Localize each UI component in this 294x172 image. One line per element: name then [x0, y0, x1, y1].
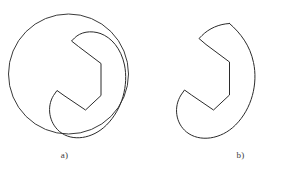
panel-b-caption: b)	[176, 151, 294, 160]
circumscribing-circle	[9, 14, 129, 134]
hook-shape-outline-a	[50, 32, 126, 138]
figure-svg	[0, 0, 294, 172]
hook-shape-outline-b	[177, 24, 255, 139]
panel-a-caption: a)	[0, 151, 129, 160]
panel-a-group	[9, 14, 129, 138]
figure-canvas: a) b)	[0, 0, 294, 172]
panel-b-group	[177, 24, 255, 139]
